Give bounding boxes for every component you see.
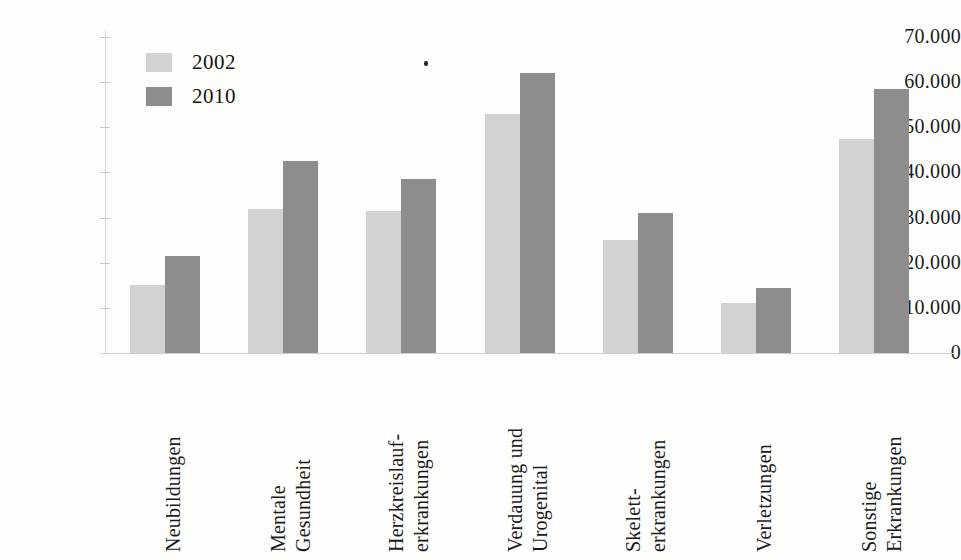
category-label-line: erkrankungen	[646, 367, 671, 552]
category-label-line: Urogenital	[528, 367, 553, 552]
bar-2010-2	[283, 161, 318, 353]
category-label-line: Skelett-	[621, 367, 646, 552]
bar-2002-4	[485, 114, 520, 353]
bar-chart: 010.00020.00030.00040.00050.00060.00070.…	[0, 0, 961, 560]
bar-2010-7	[874, 89, 909, 353]
bar-2010-5	[638, 213, 673, 353]
scan-artifact-speck	[424, 61, 428, 66]
bar-2002-6	[721, 303, 756, 353]
bar-2010-4	[520, 73, 555, 353]
legend-item-2010: 2010	[146, 79, 326, 113]
bar-2002-3	[366, 211, 401, 353]
category-label-line: Erkrankungen	[882, 367, 907, 552]
legend-swatch-icon	[146, 87, 172, 106]
chart-legend: 20022010	[146, 45, 326, 113]
bars-layer	[0, 0, 961, 353]
bar-2002-2	[248, 209, 283, 353]
legend-swatch-icon	[146, 53, 172, 72]
x-axis-category-label-text: SonstigeErkrankungen	[857, 367, 907, 552]
legend-label: 2010	[192, 86, 236, 107]
bar-2010-1	[165, 256, 200, 353]
bar-2010-3	[401, 179, 436, 353]
category-label-line: Gesundheit	[291, 367, 316, 552]
x-axis-category-label-text: Verletzungen	[752, 444, 777, 552]
chart-page: 010.00020.00030.00040.00050.00060.00070.…	[0, 0, 961, 560]
category-label-line: Herzkreislauf-	[384, 367, 409, 552]
category-label-line: Verdauung und	[503, 367, 528, 552]
bar-2002-1	[130, 285, 165, 353]
x-axis-category-label-text: Skelett-erkrankungen	[621, 367, 671, 552]
x-axis-line	[100, 353, 955, 354]
legend-label: 2002	[192, 52, 236, 73]
bar-2010-6	[756, 288, 791, 353]
bar-2002-7	[839, 139, 874, 353]
x-axis-category-label-text: Neubildungen	[161, 436, 186, 552]
category-label-line: erkrankungen	[409, 367, 434, 552]
category-label-line: Mentale	[266, 367, 291, 552]
x-axis-category-label-text: Herzkreislauf-erkrankungen	[384, 367, 434, 552]
category-label-line: Verletzungen	[752, 444, 777, 552]
bar-2002-5	[603, 240, 638, 353]
category-label-line: Sonstige	[857, 367, 882, 552]
category-label-line: Neubildungen	[161, 436, 186, 552]
legend-item-2002: 2002	[146, 45, 326, 79]
x-axis-category-label-text: MentaleGesundheit	[266, 367, 316, 552]
x-axis-category-label-text: Verdauung undUrogenital	[503, 367, 553, 552]
